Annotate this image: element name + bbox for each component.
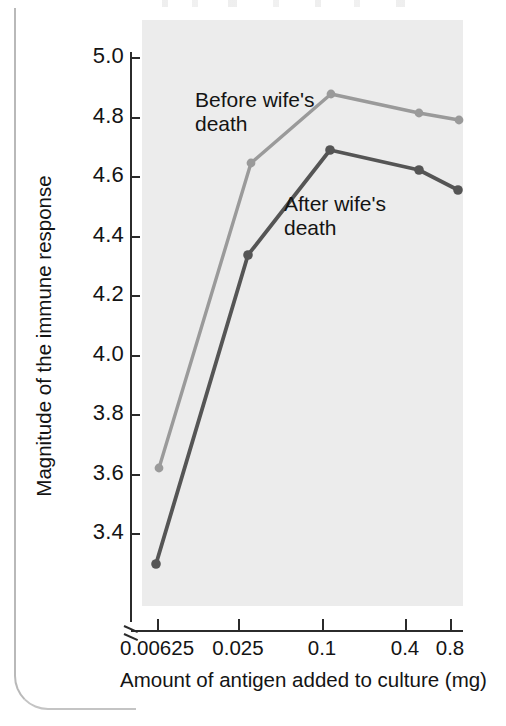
after-wifes-death-point: [414, 165, 424, 175]
before-wifes-death-point: [415, 109, 424, 118]
after-wifes-death-point: [151, 559, 161, 569]
after-wifes-death-point: [453, 185, 463, 195]
before-wifes-death-line: [159, 94, 459, 468]
after-wifes-death-point: [243, 250, 253, 260]
before-wifes-death-point: [455, 116, 464, 125]
immune-response-line-chart: 5.04.84.64.44.24.03.83.63.4 0.006250.025…: [0, 0, 506, 726]
before-wifes-death-point: [247, 159, 256, 168]
before-wifes-death-label: Before wife's death: [195, 88, 315, 136]
before-wifes-death-point: [327, 90, 336, 99]
after-wifes-death-label: After wife's death: [284, 192, 386, 240]
before-wifes-death-point: [155, 464, 164, 473]
after-wifes-death-point: [325, 145, 335, 155]
